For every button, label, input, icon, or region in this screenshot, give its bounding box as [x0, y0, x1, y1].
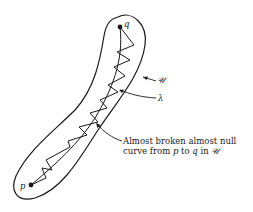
caption: Almost broken almost null curve from p t…: [123, 136, 236, 156]
broken-null-curve: [31, 27, 134, 185]
curve-lambda: [31, 27, 121, 185]
arrow-to-broken-curve: [96, 123, 122, 141]
label-region-u: 𝒰: [157, 75, 165, 85]
caption-text: curve from: [123, 146, 173, 156]
label-lambda: λ: [158, 93, 163, 103]
caption-text: to: [178, 146, 192, 156]
caption-text: in: [198, 146, 212, 156]
label-q: q: [124, 19, 129, 29]
point-p: [29, 183, 34, 188]
point-q: [118, 25, 123, 30]
arrow-to-region: [143, 77, 156, 82]
caption-region: 𝒰: [211, 146, 219, 156]
caption-line-2: curve from p to q in 𝒰: [123, 146, 236, 156]
label-p: p: [20, 181, 25, 191]
diagram-canvas: [0, 0, 253, 212]
region-u-outline: [14, 15, 146, 199]
arrow-to-lambda: [119, 90, 156, 99]
caption-line-1: Almost broken almost null: [123, 136, 236, 146]
